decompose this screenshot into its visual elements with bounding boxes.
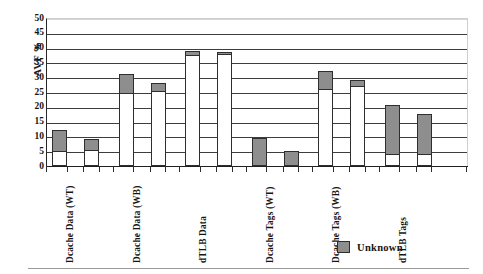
- x-tick-5-1: [312, 166, 313, 172]
- x-tick-1-2: [67, 166, 68, 172]
- legend-swatch-unknown: [337, 241, 350, 253]
- x-tick-3-2: [200, 166, 201, 172]
- bar-2-1: [119, 74, 134, 166]
- x-tick-3-1: [179, 166, 180, 172]
- bar-segment-unknown: [351, 81, 364, 87]
- category-label-6: dTLB Tags: [398, 217, 408, 263]
- bar-2-2: [151, 83, 166, 166]
- gridline-30: [47, 78, 467, 79]
- x-tick-4-3: [283, 166, 284, 172]
- gridline-20: [47, 108, 467, 109]
- chart-legend: Unknown: [337, 241, 403, 253]
- x-tick-2-2: [133, 166, 134, 172]
- y-tick-30: 30: [20, 73, 44, 82]
- bar-segment-unknown: [53, 131, 66, 152]
- y-tick-20: 20: [20, 102, 44, 111]
- bar-4-1: [252, 138, 267, 166]
- x-tick-3-4: [232, 166, 233, 172]
- x-tick-1-3: [83, 166, 84, 172]
- bar-segment-unknown: [418, 115, 431, 155]
- bar-3-2: [217, 52, 232, 166]
- legend-label-unknown: Unknown: [357, 242, 403, 253]
- y-axis-tick-labels: 05101520253035404550: [14, 0, 44, 274]
- x-tick-5-4: [365, 166, 366, 172]
- y-tick-10: 10: [20, 132, 44, 141]
- x-tick-2-4: [165, 166, 166, 172]
- x-tick-6-3: [416, 166, 417, 172]
- bar-segment-unknown: [186, 52, 199, 56]
- bar-segment-unknown: [319, 72, 332, 90]
- y-tick-35: 35: [20, 58, 44, 67]
- x-tick-3-3: [216, 166, 217, 172]
- bar-segment-unknown: [152, 84, 165, 91]
- y-tick-25: 25: [20, 88, 44, 97]
- gridline-25: [47, 93, 467, 94]
- bar-6-1: [385, 105, 400, 166]
- plot-area: [46, 18, 468, 166]
- x-tick-6-4: [431, 166, 432, 172]
- bar-3-1: [185, 51, 200, 166]
- bar-4-2: [284, 151, 299, 166]
- x-axis-line: [46, 166, 468, 167]
- bar-1-1: [52, 130, 67, 166]
- chart-figure: AVF % 05101520253035404550 Dcache Data (…: [0, 0, 483, 274]
- category-label-1: Dcache Data (WT): [65, 185, 75, 263]
- x-tick-2-1: [113, 166, 114, 172]
- bar-segment-unknown: [386, 106, 399, 155]
- y-tick-50: 50: [20, 14, 44, 23]
- gridline-15: [47, 123, 467, 124]
- y-tick-0: 0: [20, 162, 44, 171]
- x-tick-4-2: [266, 166, 267, 172]
- category-label-3: dTLB Data: [198, 216, 208, 263]
- bar-5-1: [318, 71, 333, 166]
- gridline-50: [47, 19, 467, 20]
- category-label-4: Dcache Tags (WT): [265, 186, 275, 263]
- bar-1-2: [84, 139, 99, 166]
- gridline-40: [47, 49, 467, 50]
- gridline-35: [47, 63, 467, 64]
- y-tick-5: 5: [20, 147, 44, 156]
- x-tick-6-1: [379, 166, 380, 172]
- x-tick-4-4: [298, 166, 299, 172]
- bar-6-2: [417, 114, 432, 166]
- y-tick-40: 40: [20, 43, 44, 52]
- x-tick-1-4: [99, 166, 100, 172]
- gridline-45: [47, 34, 467, 35]
- category-label-2: Dcache Data (WB): [132, 185, 142, 263]
- y-tick-45: 45: [20, 28, 44, 37]
- bar-segment-unknown: [85, 140, 98, 150]
- bar-5-2: [350, 80, 365, 166]
- bar-segment-unknown: [120, 75, 133, 94]
- bar-segment-unknown: [218, 53, 231, 54]
- y-tick-15: 15: [20, 117, 44, 126]
- x-tick-end: [466, 166, 467, 172]
- x-tick-4-1: [246, 166, 247, 172]
- x-tick-5-2: [333, 166, 334, 172]
- x-tick-5-3: [349, 166, 350, 172]
- page-bottom-rule: [28, 268, 469, 269]
- x-tick-2-3: [150, 166, 151, 172]
- x-tick-1-1: [46, 166, 47, 172]
- x-tick-6-2: [399, 166, 400, 172]
